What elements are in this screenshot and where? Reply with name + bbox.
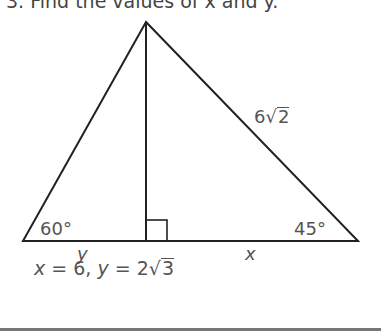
base-x-label: x [245,243,256,264]
answer-text: x = 6, y = 2√3 [34,257,174,279]
radicand: 2 [277,107,289,126]
angle-45-label: 45° [294,218,326,239]
triangle-figure [0,0,381,333]
bottom-divider [0,328,381,331]
triangle-outline [23,22,358,241]
angle-60-label: 60° [40,218,72,239]
right-angle-marker-icon [146,220,167,241]
hypotenuse-label: 6√2 [254,106,289,127]
